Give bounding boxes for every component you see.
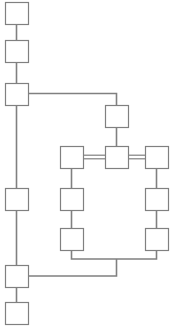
edge-n12-bottom-bus — [72, 250, 157, 259]
node-left-join-box[interactable] — [6, 266, 29, 288]
node-left-mid-box[interactable] — [6, 189, 29, 211]
node-hub-center-box[interactable] — [106, 147, 129, 169]
node-hub-left[interactable] — [61, 147, 84, 169]
node-rightcol-lower-box[interactable] — [146, 229, 169, 251]
node-top-2-box[interactable] — [6, 41, 29, 63]
node-hub-right-box[interactable] — [146, 147, 169, 169]
edges-layer — [17, 24, 157, 302]
node-bottom-last[interactable] — [6, 303, 29, 325]
node-innercol-lower-box[interactable] — [61, 229, 84, 251]
node-upper-center-box[interactable] — [106, 106, 129, 128]
node-hub-center[interactable] — [106, 147, 129, 169]
node-rightcol-lower[interactable] — [146, 229, 169, 251]
node-innercol-upper[interactable] — [61, 189, 84, 211]
diagram-canvas — [0, 0, 174, 334]
node-hub-left-box[interactable] — [61, 147, 84, 169]
node-hub-right[interactable] — [146, 147, 169, 169]
node-rightcol-upper-box[interactable] — [146, 189, 169, 211]
node-top-1-box[interactable] — [6, 3, 29, 25]
node-bottom-last-box[interactable] — [6, 303, 29, 325]
node-branch-left[interactable] — [6, 84, 29, 106]
node-branch-left-box[interactable] — [6, 84, 29, 106]
node-innercol-upper-box[interactable] — [61, 189, 84, 211]
node-top-1[interactable] — [6, 3, 29, 25]
node-left-join[interactable] — [6, 266, 29, 288]
node-left-mid[interactable] — [6, 189, 29, 211]
node-top-2[interactable] — [6, 41, 29, 63]
edge-bottom-bus-n5 — [28, 259, 117, 276]
diagram-svg — [0, 0, 174, 334]
node-upper-center[interactable] — [106, 106, 129, 128]
node-rightcol-upper[interactable] — [146, 189, 169, 211]
edge-n3-n7-elbow — [28, 94, 117, 106]
node-innercol-lower[interactable] — [61, 229, 84, 251]
